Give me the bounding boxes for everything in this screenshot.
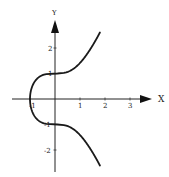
x-axis-arrow-icon xyxy=(140,95,152,103)
y-axis-arrow-icon xyxy=(51,20,59,33)
x-tick-label: 3 xyxy=(128,102,132,110)
x-tick-label: 1 xyxy=(78,102,82,110)
elliptic-curve-plot: X Y -112321-1-2 xyxy=(0,0,169,177)
x-axis-label: X xyxy=(158,94,165,104)
y-tick-label: 2 xyxy=(48,45,52,53)
x-tick-label: 2 xyxy=(103,102,107,110)
y-tick-label: -2 xyxy=(44,147,51,155)
lower-branch-curve xyxy=(30,99,100,166)
y-axis-label: Y xyxy=(51,9,57,17)
upper-branch-curve xyxy=(30,32,100,99)
